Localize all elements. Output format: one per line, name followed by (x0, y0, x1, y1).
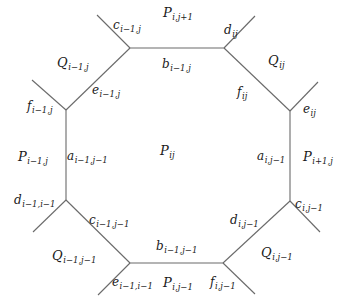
label-symbol: e (92, 83, 99, 97)
label-subscript: i−1,j (68, 62, 89, 72)
label-subscript: i,j−1 (272, 252, 293, 262)
face-Q-im1-j: Qi−1,j (57, 56, 89, 69)
label-symbol: e (112, 275, 119, 289)
label-subscript: ij (232, 29, 237, 39)
edge-label-c-im1-j: ci−1,j (113, 19, 141, 31)
label-symbol: f (237, 85, 241, 99)
label-symbol: P (160, 143, 169, 158)
label-subscript: i−1,j−1 (164, 245, 197, 255)
label-subscript: i−1,j (27, 156, 48, 166)
edge-label-e-im1-j: ei−1,j (92, 84, 120, 96)
label-subscript: i−1,i−1 (22, 199, 55, 209)
face-P-ij: Pij (160, 144, 175, 157)
label-symbol: f (210, 275, 214, 289)
label-subscript: i−1,j−1 (75, 155, 108, 165)
label-symbol: b (156, 239, 164, 253)
edge-label-b-im1-jm1: bi−1,j−1 (156, 240, 197, 252)
label-symbol: Q (52, 248, 63, 263)
face-Q-i-jm1: Qi,j−1 (261, 246, 293, 259)
label-symbol: f (27, 99, 31, 113)
label-subscript: i−1,j (32, 105, 53, 115)
label-subscript: i−1,j−1 (63, 255, 96, 265)
label-symbol: Q (268, 53, 279, 68)
label-subscript: i,j−1 (265, 155, 286, 165)
face-P-i-jp1: Pi,j+1 (163, 6, 193, 19)
label-subscript: i,j−1 (302, 203, 323, 213)
label-subscript: i−1,j (170, 63, 191, 73)
edge-label-e-im1-im1: ei−1,i−1 (112, 276, 153, 288)
label-symbol: c (89, 213, 96, 227)
label-symbol: d (14, 193, 22, 207)
face-Q-ij: Qij (268, 54, 285, 67)
face-P-ip1-j: Pi+1,j (303, 150, 333, 163)
edge-label-d-i-jm1: di,j−1 (230, 214, 259, 226)
label-subscript: ij (279, 60, 284, 70)
label-symbol: c (295, 197, 302, 211)
label-subscript: i−1,i−1 (120, 281, 153, 291)
label-symbol: b (162, 57, 170, 71)
edge-label-d-ij: dij (224, 24, 238, 36)
label-symbol: Q (261, 245, 272, 260)
edge-label-f-ij: fij (237, 86, 247, 98)
edge-label-b-im1-j: bi−1,j (162, 58, 191, 70)
edge-label-e-ij: eij (303, 103, 316, 115)
edge-label-a-im1-jm1: ai−1,j−1 (67, 150, 108, 162)
face-P-im1-j: Pi−1,j (18, 150, 48, 163)
edge-label-f-im1-j: fi−1,j (27, 100, 53, 112)
label-subscript: ij (311, 108, 316, 118)
label-symbol: Q (57, 55, 68, 70)
label-subscript: ij (169, 150, 174, 160)
label-symbol: P (163, 275, 172, 290)
label-symbol: P (18, 149, 27, 164)
label-subscript: i−1,j−1 (96, 219, 129, 229)
label-subscript: i−1,j (120, 24, 141, 34)
face-P-i-jm1: Pi,j−1 (163, 276, 193, 289)
label-subscript: i,j−1 (215, 281, 236, 291)
face-Q-im1-jm1: Qi−1,j−1 (52, 249, 96, 262)
label-subscript: i,j+1 (172, 12, 193, 22)
edge-label-f-i-jm1: fi,j−1 (210, 276, 236, 288)
label-symbol: a (67, 149, 74, 163)
label-subscript: i+1,j (312, 156, 333, 166)
edge-label-a-i-jm1: ai,j−1 (257, 150, 285, 162)
label-symbol: d (230, 213, 238, 227)
label-symbol: P (303, 149, 312, 164)
label-symbol: d (224, 23, 232, 37)
label-symbol: e (303, 102, 310, 116)
label-subscript: ij (242, 91, 247, 101)
edge-label-c-im1-jm1: ci−1,j−1 (89, 214, 129, 226)
edge-label-c-i-jm1: ci,j−1 (295, 198, 323, 210)
label-symbol: a (257, 149, 264, 163)
label-subscript: i−1,j (100, 89, 121, 99)
label-subscript: i,j−1 (172, 282, 193, 292)
label-subscript: i,j−1 (238, 219, 259, 229)
label-symbol: P (163, 5, 172, 20)
edge-label-d-im1-im1: di−1,i−1 (14, 194, 55, 206)
label-symbol: c (113, 18, 120, 32)
